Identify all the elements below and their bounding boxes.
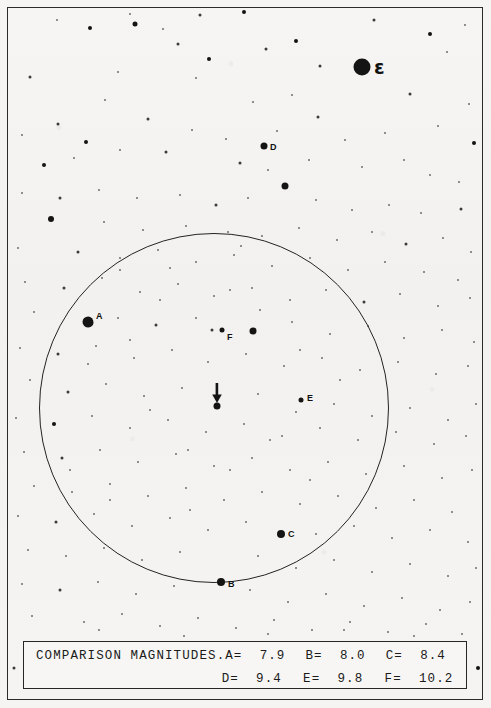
legend-entry-f: F= 10.2 [385,672,466,686]
comparison-star-c [277,530,285,538]
comparison-star-a [83,317,94,328]
comparison-star-d [261,143,268,150]
legend-entry-b: B= 8.0 [305,649,385,663]
star-label-a: A [96,311,103,321]
target-star [214,403,221,410]
star-label-b: B [228,579,235,589]
star-label-ε: ε [374,56,385,78]
comparison-star-b [217,578,225,586]
legend-row: COMPARISON MAGNITUDES. A= 7.9 B= 8.0 C= … [24,642,466,667]
star-label-f: F [227,332,233,342]
comparison-magnitudes-legend: COMPARISON MAGNITUDES. A= 7.9 B= 8.0 C= … [23,641,467,689]
star-label-d: D [270,142,277,152]
comparison-star-f [220,328,225,333]
legend-entry-e: E= 9.8 [303,672,384,686]
comparison-star-ε [354,59,371,76]
legend-entry-d: D= 9.4 [222,672,303,686]
legend-title: COMPARISON MAGNITUDES. [36,649,225,663]
legend-entry-c: C= 8.4 [386,649,466,663]
legend-row: D= 9.4 E= 9.8 F= 10.2 [24,667,466,690]
legend-entry-a: A= 7.9 [225,649,305,663]
star-finder-chart: ABCDEFε COMPARISON MAGNITUDES. A= 7.9 B=… [0,0,491,708]
comparison-star-e [299,398,304,403]
star-label-c: C [288,529,295,539]
star-label-e: E [307,393,313,403]
